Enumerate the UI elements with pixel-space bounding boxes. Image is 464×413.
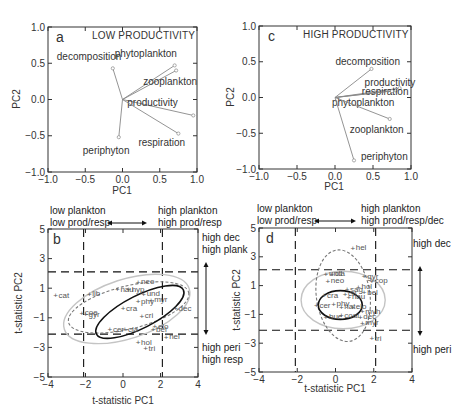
panel-d-score-plot: low plankton low prod/resp high plankton… xyxy=(231,203,451,394)
y-axis-label: t-statistic PC2 xyxy=(231,269,242,331)
point-label-cla: cla xyxy=(128,325,139,334)
annotation-high-plankton: high plankton xyxy=(158,205,218,216)
point-label-gyr: gyr xyxy=(89,310,100,319)
panel-a-loading-plot: a LOW PRODUCTIVITY −1.0−0.50.00.51.0−1.0… xyxy=(11,22,204,197)
vector-label-phytoplankton: phytoplankton xyxy=(115,48,177,59)
point-marker: + xyxy=(314,301,319,310)
point-marker: + xyxy=(143,344,148,353)
y-tick-label: −3 xyxy=(245,338,257,349)
annotation-high-plank: high plank xyxy=(202,244,249,255)
x-tick-label: 1.0 xyxy=(190,174,204,185)
point-marker: + xyxy=(126,285,131,294)
annotation-high-resp: high resp xyxy=(202,354,244,365)
annotation-high-prod-resp: high prod/resp xyxy=(158,217,222,228)
panel-letter: d xyxy=(266,230,274,246)
point-marker: + xyxy=(139,312,144,321)
annotation-low-prod-resp: low prod/resp xyxy=(50,217,110,228)
point-label-cri: cri xyxy=(145,311,154,320)
point-marker: + xyxy=(108,325,113,334)
point-marker: + xyxy=(164,333,169,342)
annotation-high-peri: high peri xyxy=(413,344,451,355)
point-label-cop: cop xyxy=(375,276,388,285)
x-tick-label: 0.0 xyxy=(116,174,130,185)
panel-letter: c xyxy=(268,28,275,44)
vector-label-decomposition: decomposition xyxy=(335,56,399,67)
point-label-dec: dec xyxy=(179,304,192,313)
y-axis-label: PC2 xyxy=(225,87,236,107)
annotation-low-prod-resp: low prod/resp xyxy=(257,215,317,226)
point-label-nau: nau xyxy=(352,292,365,301)
loading-vectors: decompositionphytoplanktonzooplanktonpro… xyxy=(57,48,197,156)
point-label-hel: hel xyxy=(356,243,367,252)
x-tick-label: 4 xyxy=(195,379,201,390)
point-label-cra: cra xyxy=(126,304,138,313)
point-marker: + xyxy=(324,313,329,322)
vector-label-phytoplankton: phytoplankton xyxy=(332,97,394,108)
annotation-low-plankton: low plankton xyxy=(257,203,313,214)
point-label-bel: bel xyxy=(367,288,378,297)
point-label-myr: myr xyxy=(365,318,379,327)
vector-label-zooplankton: zooplankton xyxy=(350,124,404,135)
vector-label-decomposition: decomposition xyxy=(57,51,121,62)
vector-label-zooplankton: zooplankton xyxy=(143,76,197,87)
point-label-myr: myr xyxy=(154,295,168,304)
panel-c-loading-plot: c HIGH PRODUCTIVITY −1.0−0.50.00.51.0−1.… xyxy=(225,21,418,193)
taxa-points: +cat+coe+gyr+lib+nau+neo+hyp+und+phy+myr… xyxy=(53,277,191,353)
x-tick-label: −0.5 xyxy=(287,171,307,182)
point-marker: + xyxy=(362,272,367,281)
y-tick-label: −0.5 xyxy=(25,130,45,141)
y-tick-label: 0.5 xyxy=(242,56,256,67)
y-tick-label: 1 xyxy=(250,280,256,291)
y-tick-label: −1.0 xyxy=(25,167,45,178)
vector-label-periphyton: periphyton xyxy=(361,151,408,162)
panel-title: LOW PRODUCTIVITY xyxy=(92,30,195,41)
vertical-double-arrow xyxy=(204,262,209,335)
point-label-cer: cer xyxy=(319,301,330,310)
horizontal-double-arrow xyxy=(314,219,356,224)
panel-letter: a xyxy=(56,29,64,45)
x-axis-label: PC1 xyxy=(324,181,344,192)
x-axis-label: PC1 xyxy=(112,185,132,196)
y-tick-label: −5 xyxy=(34,372,46,383)
x-tick-label: −2 xyxy=(80,379,92,390)
point-label-coal: coal xyxy=(344,311,359,320)
point-marker: + xyxy=(87,290,92,299)
annotation-high-peri: high peri xyxy=(202,342,240,353)
y-tick-label: 0.0 xyxy=(242,92,256,103)
x-tick-label: 2 xyxy=(371,374,377,385)
point-marker: + xyxy=(331,300,336,309)
point-label-hel: hel xyxy=(169,332,180,341)
point-marker: + xyxy=(370,334,375,343)
y-tick-label: −1.0 xyxy=(236,164,256,175)
point-marker: + xyxy=(173,304,178,313)
point-marker: + xyxy=(360,319,365,328)
y-axis-label: PC2 xyxy=(11,89,22,109)
figure: a LOW PRODUCTIVITY −1.0−0.50.00.51.0−1.0… xyxy=(0,0,464,413)
point-label-cat: cat xyxy=(59,291,70,300)
point-marker: + xyxy=(115,285,120,294)
y-tick-label: 3 xyxy=(250,251,256,262)
annotation-high-plankton: high plankton xyxy=(361,203,421,214)
y-tick-label: −0.5 xyxy=(236,128,256,139)
point-marker: + xyxy=(356,283,361,292)
annotation-low-plankton: low plankton xyxy=(50,205,106,216)
y-tick-label: 5 xyxy=(39,224,45,235)
annotation-high-prod-resp-dec: high prod/resp/dec xyxy=(361,215,444,226)
y-tick-label: −3 xyxy=(34,342,46,353)
point-marker: + xyxy=(83,310,88,319)
vector-label-periphyton: periphyton xyxy=(83,145,130,156)
y-tick-label: 1.0 xyxy=(31,22,45,33)
y-tick-label: 5 xyxy=(250,223,256,234)
x-tick-label: 2 xyxy=(158,379,164,390)
point-label-tri: tri xyxy=(375,334,382,343)
y-tick-label: 3 xyxy=(39,253,45,264)
x-tick-label: 0.5 xyxy=(366,171,380,182)
point-marker: + xyxy=(326,277,331,286)
x-axis-label: t-statistic PC1 xyxy=(92,395,154,406)
point-marker: + xyxy=(123,325,128,334)
panel-letter: b xyxy=(53,231,61,247)
x-tick-label: −2 xyxy=(292,374,304,385)
point-marker: + xyxy=(322,291,327,300)
annotation-high-dec: high dec xyxy=(202,232,240,243)
point-marker: + xyxy=(149,296,154,305)
